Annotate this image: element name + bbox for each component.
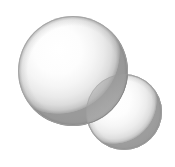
figure-canvas: Two overlapping shaded spheres, a large … — [0, 0, 175, 167]
spheres-illustration: Two overlapping shaded spheres, a large … — [0, 0, 175, 167]
